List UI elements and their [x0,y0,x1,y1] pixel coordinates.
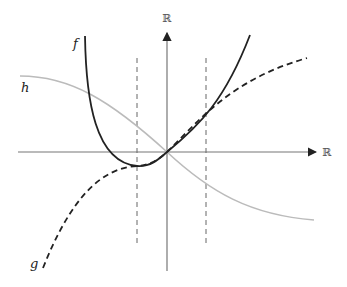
y-axis-label: ℝ [162,12,172,25]
label-g: g [30,256,38,271]
label-f: f [72,36,80,51]
label-h: h [21,80,29,95]
x-axis-label: ℝ [322,146,332,159]
function-diagram: ℝ ℝ f g h [0,0,347,287]
